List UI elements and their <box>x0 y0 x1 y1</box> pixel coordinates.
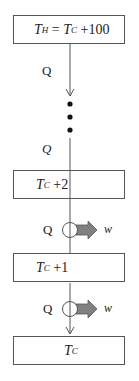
work-arrow-icon <box>75 300 97 318</box>
heat-q-label-middle: Q <box>42 141 51 157</box>
engine2-q-label: Q <box>43 301 52 317</box>
hot-reservoir-box: TH = TC +100 <box>13 15 125 44</box>
hot-reservoir-label: TH = TC +100 <box>34 16 109 43</box>
ellipsis-dot-icon <box>67 127 72 132</box>
heat-q-label-top: Q <box>42 63 51 79</box>
ellipsis-dot-icon <box>67 114 72 119</box>
engine1-w-label: w <box>104 222 112 237</box>
reservoir-tc-plus-1-box: TC +1 <box>13 253 125 282</box>
reservoir-tc-plus-2-box: TC +2 <box>13 170 125 199</box>
cold-reservoir-box: TC <box>13 336 125 365</box>
work-arrow-icon <box>75 221 97 239</box>
reservoir-tc-plus-2-label: TC +2 <box>36 171 68 198</box>
ellipsis-dot-icon <box>67 101 72 106</box>
engine2-w-label: w <box>104 301 112 316</box>
reservoir-tc-plus-1-label: TC +1 <box>36 254 68 281</box>
cold-reservoir-label: TC <box>64 337 78 364</box>
engine1-q-label: Q <box>43 222 52 238</box>
